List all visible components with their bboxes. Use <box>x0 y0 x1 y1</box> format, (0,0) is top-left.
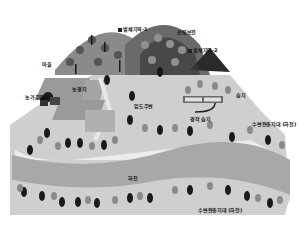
label-peak-right: 산림보전 <box>177 30 196 35</box>
label-riparian-upper: 수변완충지대 (하천) <box>252 122 296 127</box>
label-peak-left: 벌채지역-1 <box>118 27 147 32</box>
label-field: 농경지 <box>72 87 86 92</box>
landscape-illustration <box>0 0 304 234</box>
label-riparian-lower: 수변완충지대 (하천) <box>198 208 242 213</box>
label-river: 하천 <box>128 176 138 181</box>
marker-icon <box>188 49 192 53</box>
label-village: 마을 <box>42 62 52 67</box>
marker-icon <box>118 28 122 32</box>
label-farmhouse: 농가주택 <box>25 95 44 100</box>
label-forest-road: 임도주변 <box>134 104 153 109</box>
label-peak-small: 벌채지역-2 <box>188 48 217 53</box>
landscape-diagram: 벌채지역-1 산림보전 벌채지역-2 마을 농가주택 농경지 임도주변 습지 경… <box>0 0 304 234</box>
label-orchard: 경작 습지 <box>190 117 211 122</box>
label-pond: 습지 <box>236 93 246 98</box>
